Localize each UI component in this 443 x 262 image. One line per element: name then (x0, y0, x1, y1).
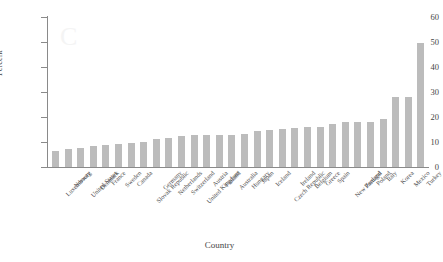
bar (417, 43, 424, 167)
plot-area (47, 17, 429, 167)
x-tick-label: Iceland (274, 170, 292, 188)
bar (279, 129, 286, 167)
bar (380, 119, 387, 168)
bar (203, 135, 210, 167)
bar (165, 138, 172, 168)
bar (354, 122, 361, 167)
bar (153, 139, 160, 168)
bar (241, 134, 248, 168)
bar (392, 97, 399, 167)
bar (52, 151, 59, 167)
bar (317, 127, 324, 168)
bar (102, 145, 109, 167)
x-axis-title: Country (0, 240, 439, 250)
bar (342, 122, 349, 167)
bar (367, 122, 374, 167)
bar (216, 135, 223, 167)
bar (405, 97, 412, 167)
bar (228, 135, 235, 168)
x-axis-line (47, 167, 429, 168)
bar (266, 130, 273, 168)
bar (65, 149, 72, 167)
bar (128, 143, 135, 168)
bar (254, 131, 261, 167)
y-tick-mark (41, 167, 47, 168)
bar (304, 127, 311, 167)
bar (178, 136, 185, 168)
bar (191, 135, 198, 167)
bar (329, 124, 336, 167)
bar (77, 148, 84, 167)
x-tick-label: Norway (73, 170, 92, 189)
bar (115, 144, 122, 168)
bar (90, 146, 97, 168)
bar (140, 142, 147, 167)
y-axis-title: Percent (0, 51, 4, 77)
bar (291, 128, 298, 168)
